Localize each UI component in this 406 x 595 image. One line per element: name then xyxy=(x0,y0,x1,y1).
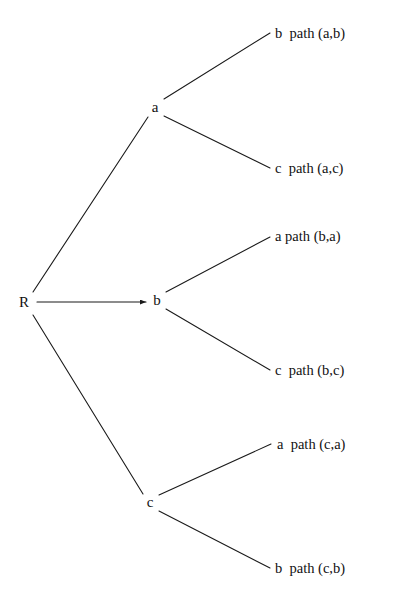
tree-leaf-leaf-ac: c path (a,c) xyxy=(275,161,343,176)
tree-leaf-leaf-ab: b path (a,b) xyxy=(275,26,345,41)
tree-edge-c-to-leaf-cb xyxy=(159,511,270,568)
tree-edge-a-to-leaf-ab xyxy=(164,33,270,99)
tree-edge-R-to-c xyxy=(33,315,143,494)
tree-leaf-leaf-ba: a path (b,a) xyxy=(275,229,341,244)
edge-layer xyxy=(0,0,406,595)
tree-edge-R-to-a xyxy=(33,117,148,292)
tree-node-a: a xyxy=(152,100,159,115)
tree-edge-b-to-leaf-bc xyxy=(166,309,270,370)
tree-edge-a-to-leaf-ac xyxy=(164,116,270,168)
tree-diagram: Rabc b path (a,b)c path (a,c)a path (b,a… xyxy=(0,0,406,595)
tree-leaf-leaf-ca: a path (c,a) xyxy=(277,437,345,452)
tree-edge-c-to-leaf-ca xyxy=(159,444,271,495)
tree-edge-b-to-leaf-ba xyxy=(166,237,270,292)
tree-leaf-leaf-cb: b path (c,b) xyxy=(275,561,345,576)
tree-node-b: b xyxy=(153,293,161,308)
tree-node-R: R xyxy=(19,295,29,310)
tree-node-c: c xyxy=(147,495,154,510)
tree-leaf-leaf-bc: c path (b,c) xyxy=(275,363,344,378)
